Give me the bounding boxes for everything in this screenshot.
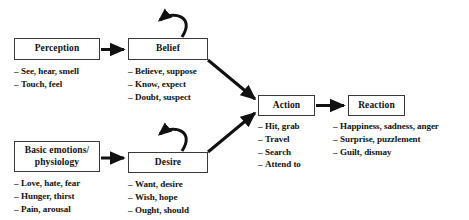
list-item: –Guilt, dismay — [333, 146, 439, 159]
node-perception[interactable]: Perception — [14, 38, 100, 60]
list-desire: –Want, desire–Wish, hope–Ought, should — [128, 178, 189, 216]
list-item: –Want, desire — [128, 178, 189, 191]
node-desire-label: Desire — [155, 157, 181, 169]
list-item-label: Ought, should — [135, 205, 189, 215]
list-item: –Surprise, puzzlement — [333, 133, 439, 146]
list-item-dash: – — [14, 177, 21, 190]
list-item-label: Attend to — [265, 159, 301, 169]
list-item-label: Want, desire — [135, 179, 183, 189]
list-item-dash: – — [128, 91, 135, 104]
node-basic-emotions[interactable]: Basic emotions/ physiology — [14, 141, 100, 172]
list-item: –Search — [258, 146, 301, 159]
list-item: –Wish, hope — [128, 191, 189, 204]
list-item-dash: – — [333, 120, 340, 133]
list-item: –Attend to — [258, 158, 301, 171]
list-item-label: Guilt, dismay — [340, 147, 391, 157]
list-item-dash: – — [128, 78, 135, 91]
list-item-dash: – — [128, 65, 135, 78]
node-basic-emotions-label: Basic emotions/ physiology — [25, 145, 90, 169]
list-item: –Know, expect — [128, 78, 197, 91]
list-item-dash: – — [14, 65, 21, 78]
list-belief: –Believe, suppose–Know, expect–Doubt, su… — [128, 65, 197, 103]
list-item-dash: – — [258, 146, 265, 159]
list-item-label: Happiness, sadness, anger — [340, 121, 439, 131]
list-item-label: Believe, suppose — [135, 66, 197, 76]
node-belief[interactable]: Belief — [128, 38, 208, 60]
list-perception: –See, hear, smell–Touch, feel — [14, 65, 79, 91]
list-item: –Hit, grab — [258, 120, 301, 133]
list-item: –Pain, arousal — [14, 203, 80, 216]
list-item-dash: – — [128, 178, 135, 191]
edge-desire-to-action — [208, 113, 255, 152]
list-item: –Travel — [258, 133, 301, 146]
list-item-label: Doubt, suspect — [135, 92, 191, 102]
list-item-dash: – — [333, 133, 340, 146]
list-item-dash: – — [14, 78, 21, 91]
list-item-label: Love, hate, fear — [21, 178, 80, 188]
list-item-label: Touch, feel — [21, 79, 62, 89]
list-item-dash: – — [258, 158, 265, 171]
list-item-dash: – — [14, 203, 21, 216]
list-item: –Hunger, thirst — [14, 190, 80, 203]
list-item-dash: – — [333, 146, 340, 159]
list-action: –Hit, grab–Travel–Search–Attend to — [258, 120, 301, 171]
list-item: –Love, hate, fear — [14, 177, 80, 190]
list-basic-emotions: –Love, hate, fear–Hunger, thirst–Pain, a… — [14, 177, 80, 215]
list-item-dash: – — [128, 191, 135, 204]
edge-belief-self-loop — [160, 15, 186, 37]
node-reaction[interactable]: Reaction — [348, 95, 405, 116]
node-belief-label: Belief — [156, 43, 180, 55]
list-item: –See, hear, smell — [14, 65, 79, 78]
list-item-dash: – — [14, 190, 21, 203]
node-desire[interactable]: Desire — [128, 152, 208, 173]
list-reaction: –Happiness, sadness, anger–Surprise, puz… — [333, 120, 439, 158]
list-item-label: Surprise, puzzlement — [340, 134, 421, 144]
list-item-dash: – — [258, 120, 265, 133]
diagram-canvas: Perception Belief Basic emotions/ physio… — [0, 0, 469, 220]
list-item: –Doubt, suspect — [128, 91, 197, 104]
list-item-dash: – — [258, 133, 265, 146]
list-item-label: Travel — [265, 134, 290, 144]
list-item: –Believe, suppose — [128, 65, 197, 78]
list-item: –Ought, should — [128, 204, 189, 217]
node-perception-label: Perception — [35, 43, 80, 55]
list-item-dash: – — [128, 204, 135, 217]
node-action-label: Action — [273, 100, 301, 112]
node-reaction-label: Reaction — [358, 100, 395, 112]
list-item-label: Know, expect — [135, 79, 186, 89]
list-item-label: Hunger, thirst — [21, 191, 74, 201]
list-item: –Touch, feel — [14, 78, 79, 91]
list-item: –Happiness, sadness, anger — [333, 120, 439, 133]
node-action[interactable]: Action — [258, 95, 315, 116]
list-item-label: Wish, hope — [135, 192, 177, 202]
edge-desire-self-loop — [160, 129, 186, 151]
list-item-label: See, hear, smell — [21, 66, 79, 76]
edge-belief-to-action — [208, 60, 255, 99]
list-item-label: Search — [265, 147, 291, 157]
list-item-label: Pain, arousal — [21, 204, 71, 214]
list-item-label: Hit, grab — [265, 121, 300, 131]
